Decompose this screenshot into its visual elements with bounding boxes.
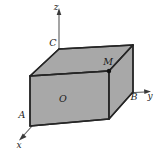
- rectangular-box-diagram: z y x O A B C M: [0, 0, 163, 151]
- box-front-face: [30, 71, 109, 126]
- box-solid: [30, 45, 133, 126]
- vertex-C-label: C: [49, 37, 57, 48]
- point-M-dot: [107, 69, 111, 73]
- y-axis-label: y: [146, 91, 153, 101]
- vertex-B-label: B: [130, 91, 138, 102]
- vertex-A-label: A: [18, 109, 26, 120]
- origin-label: O: [59, 93, 67, 104]
- figure-container: z y x O A B C M: [0, 0, 163, 151]
- x-axis-label: x: [16, 140, 21, 150]
- z-axis-label: z: [53, 2, 59, 12]
- point-M-label: M: [102, 56, 113, 67]
